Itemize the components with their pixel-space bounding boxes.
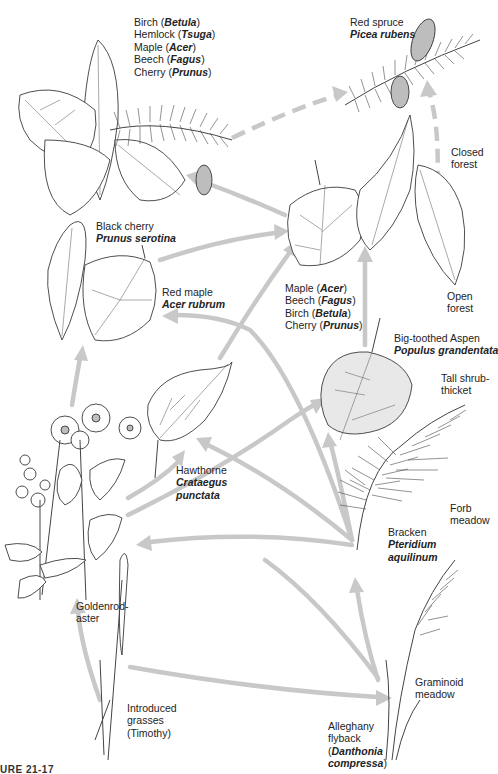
label-graminoid-meadow: Graminoid meadow [415,676,463,701]
label-line: (Timothy) [127,727,177,739]
label-line: Graminoid [415,676,463,688]
label-hawthorne: Hawthorne Crataegus punctata [176,464,227,501]
species-line: Hemlock (Tsuga) [134,28,215,40]
label-forb-meadow: Forb meadow [450,502,490,527]
species-line: Maple (Acer) [285,282,363,294]
label-line: meadow [415,688,463,700]
illustration-timothy-grass [95,554,128,760]
arrowhead-icon [136,535,152,551]
species-line: Birch (Betula) [285,307,363,319]
label-mixed-hardwood-hemlock: Birch (Betula) Hemlock (Tsuga) Maple (Ac… [134,16,215,78]
scientific-name: Crataegus [176,476,227,488]
common-name: Black cherry [96,220,176,232]
label-big-toothed-aspen: Big-toothed Aspen Populus grandentata [394,332,498,357]
common-name: Big-toothed Aspen [394,332,498,344]
species-line: Beech (Fagus) [134,53,215,65]
label-red-spruce: Red spruce Picea rubens [350,16,415,41]
scientific-name: (Danthonia [328,745,387,757]
arrow-bracken-to-red-maple [176,315,352,540]
label-line: Tall shrub- [441,372,489,384]
figure-caption: URE 21-17 [0,764,54,774]
arrow-grasses-to-graminoid [130,667,378,697]
common-name: Red spruce [350,16,415,28]
label-goldenrod-aster: Goldenrod- aster [76,600,129,625]
scientific-name: aquilinum [388,551,438,563]
arrowhead-icon [349,577,364,593]
arrow-hawthorne-to-northern-hardwoods [220,252,290,358]
label-closed-forest: Closed forest [451,146,484,171]
arrow-bracken-to-goldenrod [150,537,352,545]
label-black-cherry: Black cherry Prunus serotina [96,220,176,245]
species-line: Cherry (Prunus) [285,319,363,331]
arrow-grasses-to-goldenrod [78,612,100,700]
scientific-name: punctata [176,489,227,501]
label-line: forest [451,158,484,170]
arrow-hardwood-hemlock-to-spruce [232,95,338,138]
label-line: thicket [441,384,489,396]
illustration-danthonia-grass [386,560,458,760]
common-name: Bracken [388,526,438,538]
scientific-name: compressa) [328,757,387,769]
arrowhead-icon [376,690,392,706]
arrowhead-icon [322,432,337,448]
arrowhead-icon [74,345,88,361]
label-line: Forb [450,502,490,514]
label-bracken: Bracken Pteridium aquilinum [388,526,438,563]
arrow-goldenrod-to-black-cherry [72,358,80,405]
arrow-red-maple-to-northern-hardwoods [160,233,275,260]
scientific-name: Populus grandentata [394,344,498,356]
scientific-name: Pteridium [388,538,438,550]
label-northern-hardwoods: Maple (Acer) Beech (Fagus) Birch (Betula… [285,282,363,332]
label-line: Closed [451,146,484,158]
species-line: Cherry (Prunus) [134,66,215,78]
label-line: forest [447,302,473,314]
arrowhead-icon [420,80,437,97]
arrowhead-icon [332,86,348,102]
aster-flowers [51,404,141,449]
scientific-name: Acer rubrum [162,298,225,310]
label-introduced-grasses: Introduced grasses (Timothy) [127,702,177,739]
label-red-maple: Red maple Acer rubrum [162,286,225,311]
illustration-hawthorne [148,362,233,478]
label-open-forest: Open forest [447,290,473,315]
label-line: Introduced [127,702,177,714]
label-alleghany-flyback: Alleghany flyback (Danthonia compressa) [328,720,387,770]
goldenrod-plume [16,455,50,507]
species-line: Birch (Betula) [134,16,215,28]
common-name: Red maple [162,286,225,298]
scientific-name: Picea rubens [350,28,415,40]
label-tall-shrub-thicket: Tall shrub- thicket [441,372,489,397]
label-line: flyback [328,732,387,744]
label-line: meadow [450,514,490,526]
arrowhead-icon [274,224,289,240]
label-line: grasses [127,714,177,726]
scientific-name: Prunus serotina [96,232,176,244]
label-line: aster [76,612,129,624]
common-name: Hawthorne [176,464,227,476]
label-line: Goldenrod- [76,600,129,612]
label-line: Open [447,290,473,302]
label-line: Alleghany [328,720,387,732]
species-line: Beech (Fagus) [285,294,363,306]
species-line: Maple (Acer) [134,41,215,53]
